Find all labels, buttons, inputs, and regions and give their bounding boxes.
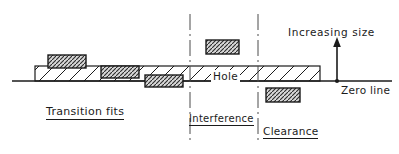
- zone-label-transition-fits: Transition fits: [46, 105, 124, 120]
- increasing-size-arrow-icon: [333, 37, 341, 83]
- shaft-block-4: [206, 40, 239, 54]
- zero-line-label: Zero line: [341, 84, 390, 96]
- shaft-block-1: [48, 55, 86, 68]
- increasing-size-label: Increasing size: [288, 26, 375, 38]
- zone-label-interference: Interference: [189, 113, 254, 126]
- shaft-block-2: [101, 66, 139, 78]
- tolerance-fits-diagram: Increasing size Hole Zero line Transitio…: [0, 0, 399, 154]
- zone-label-clearance: Clearance: [263, 125, 318, 139]
- diagram-canvas: [0, 0, 399, 154]
- hole-label: Hole: [211, 70, 240, 82]
- shaft-block-5: [266, 88, 300, 102]
- shaft-block-3: [145, 75, 183, 87]
